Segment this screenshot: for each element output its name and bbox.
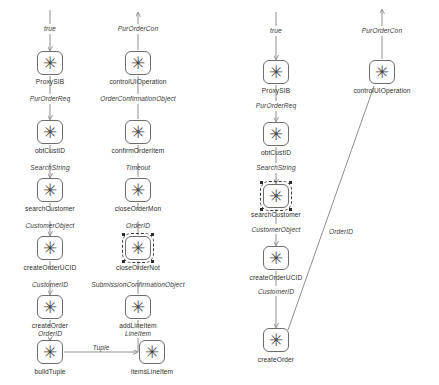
diagram-canvas[interactable]: ✳ ✳ ✳ ✳ ✳ ✳ ✳ true ProxySIB PurOrderReq …	[0, 0, 439, 385]
edge-label-purorderreq-c1: PurOrderReq	[30, 96, 70, 103]
asterisk-node-icon: ✳	[264, 247, 288, 269]
node-label-addlineitem-c2: addLineItem	[119, 323, 156, 330]
asterisk-node-icon: ✳	[38, 121, 62, 143]
edge-label-purordercon-c2: PurOrderCon	[118, 26, 158, 33]
node-label-createorderucid-c1: createOrderUCID	[24, 265, 77, 272]
edge-label-tuple-c1: Tuple	[93, 345, 110, 352]
node-label-obtcustid-c1: obtCustID	[35, 148, 65, 155]
edge-label-customerobject-c3: CustomerObject	[251, 227, 300, 234]
resize-handle-nw[interactable]	[260, 181, 263, 184]
asterisk-node-icon: ✳	[370, 61, 394, 83]
node-label-buildtuple-c1: buildTuple	[34, 369, 65, 376]
resize-handle-ne[interactable]	[289, 181, 292, 184]
node-proxysib-c3[interactable]: ✳	[263, 60, 289, 84]
node-label-createorder-c1: createOrder	[32, 323, 68, 330]
edge-label-orderid-c1: OrderID	[38, 331, 62, 338]
edge-label-searchstring-c3: SearchString	[256, 165, 295, 172]
node-label-proxysib-c3: ProxySIB	[262, 88, 290, 95]
edge-label-lineitem-c2: LineItem	[125, 331, 151, 338]
edge-label-true-c1: true	[44, 26, 56, 33]
node-label-searchcustomer-c3: searchCustomer	[251, 212, 301, 219]
node-closeordermon-c2[interactable]: ✳	[125, 178, 151, 202]
edge-label-purorderreq-c3: PurOrderReq	[256, 103, 296, 110]
asterisk-node-icon: ✳	[264, 123, 288, 145]
edge-label-customerid-c3: CustomerID	[258, 289, 294, 296]
asterisk-node-icon: ✳	[126, 179, 150, 201]
edge-label-submissionconfirmationobject-c2: SubmissionConfirmationObject	[91, 282, 184, 289]
edge-label-purordercon-c3: PurOrderCon	[362, 28, 402, 35]
edge-label-orderid-c2: OrderID	[126, 223, 150, 230]
asterisk-node-icon: ✳	[38, 179, 62, 201]
edge-label-orderconfirmationobject-c2: OrderConfirmationObject	[100, 96, 176, 103]
node-confirmorderitem-c2[interactable]: ✳	[125, 120, 151, 144]
node-closeordernot-c2[interactable]: ✳	[125, 236, 151, 260]
node-label-createorder-c3: createOrder	[258, 357, 294, 364]
resize-handle-se[interactable]	[151, 260, 154, 263]
asterisk-node-icon: ✳	[126, 237, 150, 259]
asterisk-node-icon: ✳	[140, 341, 164, 363]
resize-handle-nw[interactable]	[122, 233, 125, 236]
asterisk-node-icon: ✳	[38, 341, 62, 363]
edge-label-searchstring-c1: SearchString	[30, 165, 69, 172]
resize-handle-sw[interactable]	[122, 260, 125, 263]
node-proxysib-c1[interactable]: ✳	[37, 51, 63, 75]
node-searchcustomer-c1[interactable]: ✳	[37, 178, 63, 202]
edge-label-orderid-c3: OrderID	[329, 229, 353, 236]
asterisk-node-icon: ✳	[38, 237, 62, 259]
asterisk-node-icon: ✳	[38, 296, 62, 318]
node-label-createorderucid-c3: createOrderUCID	[250, 275, 303, 282]
node-label-confirmorderitem-c2: confirmOrderItem	[112, 148, 165, 155]
edge-label-customerid-c1: CustomerID	[32, 282, 68, 289]
node-createorder-c3[interactable]: ✳	[263, 328, 289, 352]
node-label-searchcustomer-c1: searchCustomer	[25, 206, 75, 213]
asterisk-node-icon: ✳	[264, 185, 288, 207]
node-label-closeordermon-c2: closeOrderMon	[115, 206, 161, 213]
node-label-itemslineitem-c1: itemsLineItem	[131, 369, 173, 376]
asterisk-node-icon: ✳	[126, 52, 150, 74]
node-obtcustid-c3[interactable]: ✳	[263, 122, 289, 146]
node-itemslineitem-c1[interactable]: ✳	[139, 340, 165, 364]
asterisk-node-icon: ✳	[126, 121, 150, 143]
node-label-obtcustid-c3: obtCustID	[261, 150, 291, 157]
edge-label-timeout-c2: Timeout	[126, 165, 150, 172]
node-createorderucid-c1[interactable]: ✳	[37, 236, 63, 260]
edge-label-customerobject-c1: CustomerObject	[25, 223, 74, 230]
node-controluioperation-c3[interactable]: ✳	[369, 60, 395, 84]
node-buildtuple-c1[interactable]: ✳	[37, 340, 63, 364]
node-label-controluioperation-c3: controlUIOperation	[353, 88, 410, 95]
edge-label-true-c3: true	[270, 28, 282, 35]
node-label-controluioperation-c2: controlUIOperation	[109, 79, 166, 86]
node-label-proxysib-c1: ProxySIB	[36, 79, 64, 86]
node-label-closeordernot-c2: closeOrderNot	[116, 265, 160, 272]
node-createorderucid-c3[interactable]: ✳	[263, 246, 289, 270]
node-addlineitem-c2[interactable]: ✳	[125, 295, 151, 319]
node-searchcustomer-c3[interactable]: ✳	[263, 184, 289, 208]
asterisk-node-icon: ✳	[264, 329, 288, 351]
node-obtcustid-c1[interactable]: ✳	[37, 120, 63, 144]
asterisk-node-icon: ✳	[126, 296, 150, 318]
asterisk-node-icon: ✳	[264, 61, 288, 83]
node-createorder-c1[interactable]: ✳	[37, 295, 63, 319]
resize-handle-ne[interactable]	[151, 233, 154, 236]
node-controluioperation-c2[interactable]: ✳	[125, 51, 151, 75]
asterisk-node-icon: ✳	[38, 52, 62, 74]
